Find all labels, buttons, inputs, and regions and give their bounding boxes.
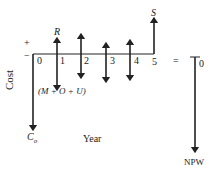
cost-axis-label: Cost — [4, 70, 14, 90]
year-axis-label: Year — [83, 134, 101, 144]
plus-sign: + — [24, 38, 30, 48]
year-2-label: 2 — [84, 56, 89, 66]
year-0-label: 0 — [37, 56, 42, 66]
year-5-label: 5 — [152, 57, 157, 67]
year-1-label: 1 — [60, 56, 65, 66]
initial-cost-label: Co — [27, 132, 37, 146]
annual-cost-label: (M + O + U) — [38, 86, 86, 96]
npw-label: NPW — [184, 157, 204, 167]
revenue-label: R — [54, 27, 60, 37]
cash-flow-diagram — [0, 0, 218, 177]
salvage-label: S — [151, 8, 156, 18]
year-4-label: 4 — [134, 56, 139, 66]
npw-zero-label: 0 — [199, 59, 204, 69]
minus-sign: − — [24, 51, 30, 61]
year-3-label: 3 — [110, 56, 115, 66]
equals-sign: = — [173, 56, 179, 66]
